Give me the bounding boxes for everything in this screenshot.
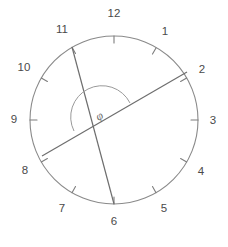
hour-label-10: 10 (18, 61, 31, 73)
angle-phi-label: φ (93, 108, 106, 124)
hour-tick-5 (153, 187, 157, 193)
hour-label-12: 12 (108, 7, 121, 19)
hour-label-1: 1 (162, 25, 168, 37)
hour-tick-group (30, 36, 198, 204)
hour-label-11: 11 (56, 23, 68, 35)
clock-circle (30, 36, 198, 204)
clock-diagram-svg: φ 12 1 2 3 4 5 6 7 8 9 10 11 (0, 0, 228, 247)
hour-label-4: 4 (198, 165, 205, 177)
chord-eleven-to-six (72, 47, 114, 204)
hour-tick-7 (72, 187, 76, 193)
hour-label-3: 3 (210, 114, 216, 126)
hour-tick-2 (181, 78, 187, 82)
chord-eight-to-two (42, 72, 187, 156)
hour-tick-10 (41, 78, 47, 82)
clock-angle-diagram: φ 12 1 2 3 4 5 6 7 8 9 10 11 (0, 0, 228, 247)
hour-label-7: 7 (59, 202, 65, 214)
hour-label-2: 2 (199, 63, 205, 75)
hour-tick-1 (153, 48, 157, 54)
hour-label-5: 5 (161, 202, 167, 214)
angle-arc (71, 86, 130, 131)
hour-label-9: 9 (11, 113, 17, 125)
hour-label-8: 8 (22, 164, 28, 176)
hour-tick-4 (181, 159, 187, 163)
hour-label-6: 6 (111, 215, 117, 227)
hour-tick-8 (41, 159, 47, 163)
